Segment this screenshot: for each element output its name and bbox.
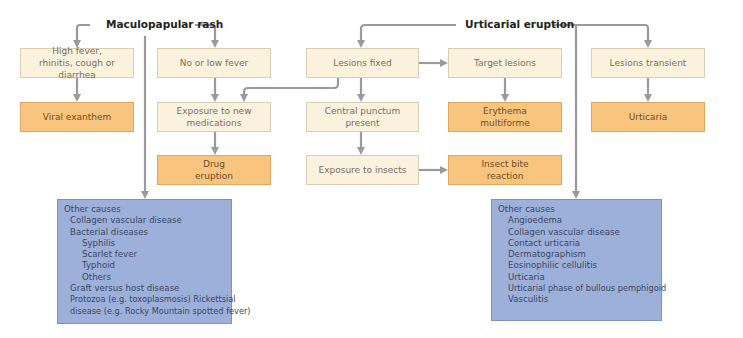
cause-item: Syphilis <box>64 238 225 249</box>
node-label: Insect bite reaction <box>475 158 535 182</box>
root-maculopapular-rash: Maculopapular rash <box>106 18 223 30</box>
node-label: Urticaria <box>629 111 668 123</box>
node-exposure-medications: Exposure to new medications <box>157 102 271 132</box>
cause-item: Scarlet fever <box>64 249 225 260</box>
cause-item: Collagen vascular disease <box>498 227 655 238</box>
cause-item: disease (e.g. Rocky Mountain spotted fev… <box>64 306 225 317</box>
cause-item: Graft versus host disease <box>64 283 225 294</box>
node-central-punctum: Central punctum present <box>306 102 419 132</box>
node-label: Drug eruption <box>189 158 239 182</box>
cause-item: Others <box>64 272 225 283</box>
other-causes-title: Other causes <box>498 204 655 215</box>
node-no-low-fever: No or low fever <box>157 48 271 78</box>
node-urticaria: Urticaria <box>591 102 705 132</box>
node-erythema-multiforme: Erythema multiforme <box>448 102 562 132</box>
cause-item: Vasculitis <box>498 294 655 305</box>
node-label: Exposure to insects <box>318 164 406 176</box>
node-high-fever: High fever, rhinitis, cough or diarrhea <box>20 48 134 78</box>
cause-item: Bacterial diseases <box>64 227 225 238</box>
other-causes-urticarial: Other causes Angioedema Collagen vascula… <box>491 199 662 321</box>
node-insect-bite-reaction: Insect bite reaction <box>448 155 562 185</box>
node-label: Lesions transient <box>610 57 687 69</box>
cause-item: Typhoid <box>64 260 225 271</box>
node-label: Lesions fixed <box>333 57 391 69</box>
node-drug-eruption: Drug eruption <box>157 155 271 185</box>
cause-item: Protozoa (e.g. toxoplasmosis) Rickettsia… <box>64 294 225 305</box>
node-viral-exanthem: Viral exanthem <box>20 102 134 132</box>
node-exposure-insects: Exposure to insects <box>306 155 419 185</box>
other-causes-maculopapular: Other causes Collagen vascular disease B… <box>57 199 232 324</box>
node-lesions-transient: Lesions transient <box>591 48 705 78</box>
cause-item: Eosinophilic cellulitis <box>498 260 655 271</box>
node-lesions-fixed: Lesions fixed <box>306 48 419 78</box>
root-urticarial-eruption: Urticarial eruption <box>465 18 574 30</box>
node-label: Target lesions <box>474 57 536 69</box>
node-label: Viral exanthem <box>43 111 112 123</box>
cause-item: Dermatographism <box>498 249 655 260</box>
other-causes-title: Other causes <box>64 204 225 215</box>
cause-item: Contact urticaria <box>498 238 655 249</box>
node-label: Exposure to new medications <box>174 105 254 129</box>
cause-item: Urticaria <box>498 272 655 283</box>
node-label: No or low fever <box>180 57 249 69</box>
node-target-lesions: Target lesions <box>448 48 562 78</box>
node-label: Erythema multiforme <box>475 105 535 129</box>
cause-item: Urticarial phase of bullous pemphigoid <box>498 283 655 294</box>
cause-item: Angioedema <box>498 215 655 226</box>
cause-item: Collagen vascular disease <box>64 215 225 226</box>
node-label: High fever, rhinitis, cough or diarrhea <box>34 45 120 81</box>
node-label: Central punctum present <box>320 105 406 129</box>
